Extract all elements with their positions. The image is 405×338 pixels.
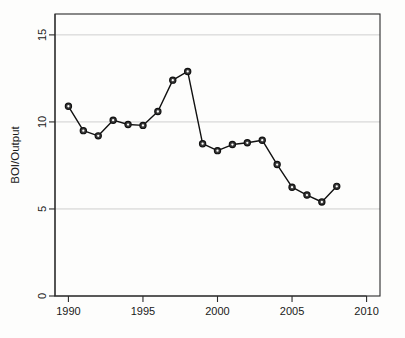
x-tick-label-2000: 2000 xyxy=(205,305,229,317)
x-tick-label-1995: 1995 xyxy=(131,305,155,317)
data-point-center-1993 xyxy=(112,119,114,121)
data-point-center-1998 xyxy=(187,70,189,72)
line-chart-svg: 051015 19901995200020052010 BOI/Output xyxy=(0,0,405,338)
data-point-center-2007 xyxy=(321,201,323,203)
data-point-center-1992 xyxy=(97,135,99,137)
data-point-center-2008 xyxy=(336,185,338,187)
data-point-center-1999 xyxy=(201,143,203,145)
data-point-center-2005 xyxy=(291,186,293,188)
y-tick-label-5: 5 xyxy=(36,206,48,212)
data-point-center-1995 xyxy=(142,124,144,126)
y-axis-title: BOI/Output xyxy=(9,125,21,183)
data-point-center-1991 xyxy=(82,129,84,131)
x-tick-label-1990: 1990 xyxy=(56,305,80,317)
chart-background xyxy=(0,0,405,338)
data-point-center-2004 xyxy=(276,163,278,165)
y-tick-label-10: 10 xyxy=(36,116,48,128)
y-tick-label-15: 15 xyxy=(36,29,48,41)
data-point-center-1990 xyxy=(67,105,69,107)
data-point-center-2003 xyxy=(261,139,263,141)
data-point-center-1996 xyxy=(157,110,159,112)
x-tick-label-2010: 2010 xyxy=(354,305,378,317)
data-point-center-2000 xyxy=(216,149,218,151)
data-point-center-1997 xyxy=(172,79,174,81)
data-point-center-1994 xyxy=(127,123,129,125)
x-tick-label-2005: 2005 xyxy=(280,305,304,317)
y-tick-label-0: 0 xyxy=(36,293,48,299)
data-point-center-2001 xyxy=(231,143,233,145)
data-point-center-2006 xyxy=(306,194,308,196)
data-point-center-2002 xyxy=(246,142,248,144)
chart-figure: 051015 19901995200020052010 BOI/Output xyxy=(0,0,405,338)
